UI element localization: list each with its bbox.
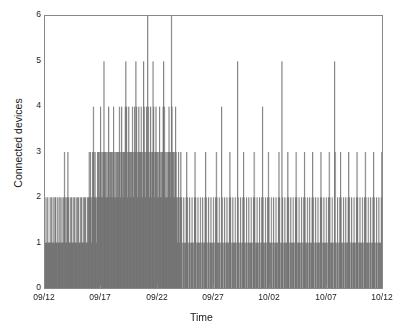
y-tick-label: 4 xyxy=(13,101,41,110)
y-tick-label: 3 xyxy=(13,147,41,156)
x-axis-title: Time xyxy=(0,311,403,323)
x-tick-label: 10/07 xyxy=(304,292,348,302)
x-tick-mark xyxy=(213,285,214,289)
x-tick-label: 10/02 xyxy=(247,292,291,302)
x-tick-mark xyxy=(157,285,158,289)
x-tick-mark xyxy=(100,285,101,289)
x-tick-label: 10/12 xyxy=(360,292,403,302)
chart-figure: Connected devices 0123456 09/1209/1709/2… xyxy=(0,0,403,334)
y-tick-label: 6 xyxy=(13,10,41,19)
y-tick-label: 1 xyxy=(13,238,41,247)
y-tick-label: 2 xyxy=(13,192,41,201)
x-tick-label: 09/12 xyxy=(22,292,66,302)
x-tick-mark xyxy=(269,285,270,289)
y-tick-label: 0 xyxy=(13,283,41,292)
y-tick-label: 5 xyxy=(13,56,41,65)
x-tick-label: 09/22 xyxy=(135,292,179,302)
plot-area xyxy=(44,15,383,289)
y-axis-tick-labels: 0123456 xyxy=(8,0,41,334)
x-tick-label: 09/17 xyxy=(78,292,122,302)
bar-series-canvas xyxy=(45,16,382,288)
x-tick-label: 09/27 xyxy=(191,292,235,302)
x-tick-mark xyxy=(326,285,327,289)
